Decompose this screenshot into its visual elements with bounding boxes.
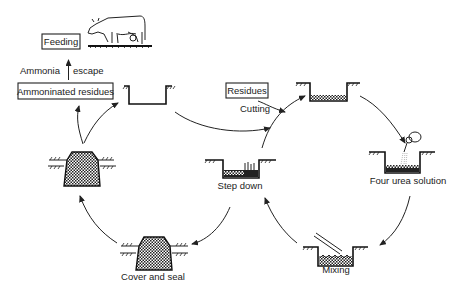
ammonia-label: Ammonia [20,65,61,76]
escape-label: escape [73,65,104,76]
pit-mixing [303,233,368,266]
arrow-covered-to-emptied-pit [84,103,118,143]
arrow-stepdown-to-seal [192,207,230,244]
mixing-label: Mixing [322,264,349,275]
ammoniated-residues-box: Ammoninated residues [17,83,114,99]
empty-pit-emptied [123,86,175,104]
arrow-seal-to-covered [80,196,117,243]
arrow-residue-to-urea [360,96,405,143]
four-urea-solution-label: Four urea solution [370,175,447,186]
pit-step-down [205,160,276,178]
urea-treatment-cycle-diagram: Feeding Ammonia escape Ammoninated resid… [0,0,461,295]
step-down-label: Step down [218,180,263,191]
feeding-label: Feeding [44,36,78,47]
covered-pit-left [48,152,116,186]
cow-icon [88,16,152,48]
feeding-box: Feeding [42,34,80,49]
residues-label: Residues [227,85,267,96]
arrow-mixing-to-stepdown [265,198,297,243]
pit-with-residues [296,83,360,101]
arrow-urea-to-mixing [380,196,410,245]
covered-pit-bottom [120,237,188,270]
ammoniated-residues-label: Ammoninated residues [17,86,114,97]
ammonia-escape-arrow: Ammonia escape [20,60,104,80]
cover-and-seal-label: Cover and seal [121,271,185,282]
arrow-covered-to-ammoniated [78,106,83,144]
residues-box: Residues [226,83,268,98]
arrow-emptied-to-cycle [175,112,270,131]
